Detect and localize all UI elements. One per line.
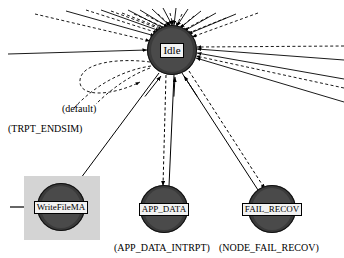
state-diagram-canvas: Idle WriteFileMA APP_DATA FAIL_RECOV (de… (0, 0, 344, 258)
lower-node-edges (72, 71, 265, 190)
self-loop-edge (74, 61, 151, 108)
node-writefilema-label: WriteFileMA (34, 201, 89, 214)
edge-label-trpt-endsim: (TRPT_ENDSIM) (8, 124, 82, 134)
node-fail-recov-label: FAIL_RECOV (242, 203, 302, 216)
node-idle[interactable]: Idle (147, 25, 197, 75)
idle-app-data-dashed (163, 75, 166, 186)
idle-fail-recov-dashed (189, 71, 265, 189)
node-caption-app-data: (APP_DATA_INTRPT) (114, 243, 210, 253)
node-app-data[interactable]: APP_DATA (140, 185, 188, 233)
node-caption-fail-recov: (NODE_FAIL_RECOV) (219, 243, 319, 253)
idle-app-data-solid (169, 75, 174, 186)
node-writefilema[interactable]: WriteFileMA (37, 183, 85, 231)
node-idle-label: Idle (160, 43, 183, 58)
node-app-data-label: APP_DATA (139, 203, 189, 216)
edge-label-default: (default) (62, 104, 96, 114)
node-fail-recov[interactable]: FAIL_RECOV (248, 185, 296, 233)
